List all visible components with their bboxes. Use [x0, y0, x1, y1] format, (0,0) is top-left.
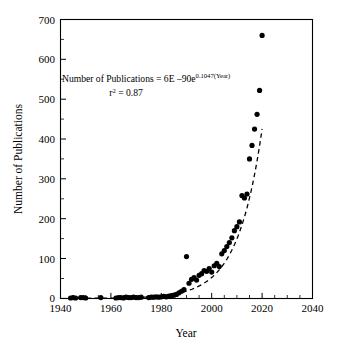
data-point [249, 143, 254, 148]
x-tick-label: 2020 [251, 302, 274, 314]
y-axis: 700 600 500 400 300 200 [39, 14, 67, 305]
y-tick-label: 100 [39, 253, 56, 265]
y-tick-label: 600 [39, 53, 56, 65]
chart-svg: 700 600 500 400 300 200 [0, 0, 343, 355]
data-point [227, 240, 232, 245]
regression-equation: Number of Publications = 6E –90e0.1047(Y… [62, 72, 230, 84]
y-tick-400: 400 [39, 133, 67, 145]
data-point [244, 191, 249, 196]
data-point [98, 295, 103, 300]
y-tick-label: 200 [39, 213, 56, 225]
data-point [237, 219, 242, 224]
data-point [257, 88, 262, 93]
data-point [234, 224, 239, 229]
x-tick-2000: 2000 [201, 293, 224, 314]
y-tick-label: 400 [39, 133, 56, 145]
x-tick-label: 1960 [100, 302, 123, 314]
x-minor-ticks [73, 295, 300, 298]
equation-exponent: 0.1047(Year) [196, 72, 231, 80]
equation-lhs: Number of Publications = 6E –90e [62, 73, 196, 84]
data-point [73, 295, 78, 300]
data-point [217, 264, 222, 269]
data-point [194, 277, 199, 282]
r-squared-annotation: r2 = 0.87 [109, 87, 143, 98]
y-tick-500: 500 [39, 93, 67, 105]
x-axis-title: Year [175, 327, 196, 339]
data-point [181, 287, 186, 292]
x-tick-label: 2000 [201, 302, 224, 314]
y-tick-700: 700 [39, 14, 67, 26]
data-point [252, 126, 257, 131]
x-tick-label: 2040 [302, 302, 325, 314]
x-tick-2020: 2020 [251, 293, 274, 314]
exponential-trendline [71, 129, 263, 298]
y-tick-label: 300 [39, 173, 56, 185]
data-point [184, 254, 189, 259]
y-tick-label: 700 [39, 14, 56, 26]
regression-annotation: Number of Publications = 6E –90e0.1047(Y… [62, 72, 230, 98]
publications-per-year-chart: 700 600 500 400 300 200 [0, 0, 343, 355]
y-tick-600: 600 [39, 53, 67, 65]
data-point [247, 156, 252, 161]
y-tick-100: 100 [39, 253, 67, 265]
x-tick-2040: 2040 [302, 293, 325, 314]
y-tick-label: 500 [39, 93, 56, 105]
data-point [254, 112, 259, 117]
data-point [209, 270, 214, 275]
x-tick-label: 1940 [50, 302, 73, 314]
x-axis: 1940 1960 1980 2000 2020 2040 [50, 293, 325, 314]
data-point [260, 33, 265, 38]
data-point [229, 235, 234, 240]
y-tick-300: 300 [39, 173, 67, 185]
y-tick-200: 200 [39, 213, 67, 225]
data-point [139, 295, 144, 300]
data-point [83, 295, 88, 300]
x-tick-label: 1980 [150, 302, 173, 314]
y-axis-title: Number of Publications [12, 104, 24, 214]
